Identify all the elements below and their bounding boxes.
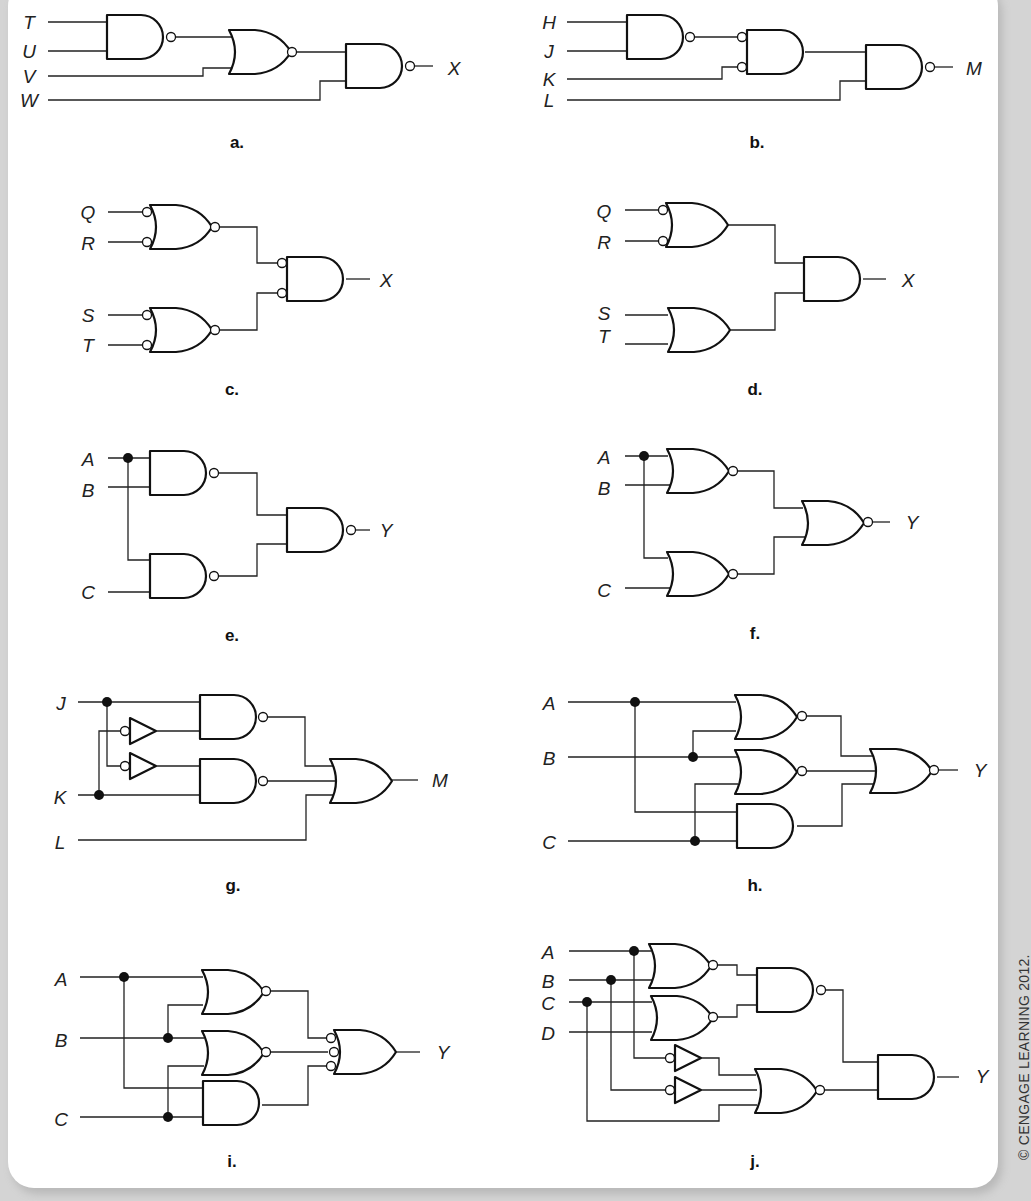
- circuit-j: [569, 944, 959, 1121]
- input-label-L: L: [544, 91, 555, 110]
- inversion-bubble: [167, 33, 176, 42]
- not-gate: [130, 718, 156, 744]
- circuit-i: [80, 970, 420, 1125]
- circuit-d: [625, 203, 886, 352]
- input-label-K: K: [54, 788, 67, 807]
- caption-c: c.: [225, 380, 239, 400]
- input-label-S: S: [598, 304, 611, 323]
- output-label: X: [380, 271, 393, 290]
- junction-dot: [123, 453, 133, 463]
- input-label-D: D: [541, 1024, 555, 1043]
- output-label: Y: [380, 521, 393, 540]
- input-label-L: L: [55, 833, 66, 852]
- input-label-B: B: [542, 972, 555, 991]
- circuit-g: [78, 695, 418, 840]
- input-label-Q: Q: [81, 203, 96, 222]
- input-label-C: C: [597, 581, 611, 600]
- caption-g: g.: [225, 876, 240, 896]
- circuit-h: [568, 695, 958, 848]
- input-label-C: C: [541, 994, 555, 1013]
- input-label-A: A: [543, 694, 556, 713]
- input-label-A: A: [598, 448, 611, 467]
- and-gate-inverted-inputs: [747, 30, 803, 74]
- input-label-S: S: [82, 306, 95, 325]
- caption-i: i.: [227, 1152, 236, 1172]
- output-label: Y: [437, 1043, 450, 1062]
- caption-b: b.: [749, 133, 764, 153]
- input-label-R: R: [597, 233, 611, 252]
- input-label-J: J: [56, 694, 66, 713]
- input-label-T: T: [82, 336, 94, 355]
- input-label-C: C: [542, 833, 556, 852]
- caption-f: f.: [750, 624, 760, 644]
- output-label: M: [966, 59, 982, 78]
- output-label: Y: [974, 761, 987, 780]
- logic-circuits-figure: [0, 0, 1031, 1201]
- input-label-B: B: [82, 481, 95, 500]
- nand-gate: [346, 44, 402, 88]
- input-label-W: W: [20, 91, 38, 110]
- input-label-K: K: [543, 70, 556, 89]
- input-label-J: J: [544, 42, 554, 61]
- input-label-V: V: [23, 67, 36, 86]
- input-label-A: A: [82, 450, 95, 469]
- caption-j: j.: [750, 1152, 759, 1172]
- output-label: Y: [906, 513, 919, 532]
- input-label-B: B: [55, 1031, 68, 1050]
- output-label: M: [432, 771, 448, 790]
- or-gate-inverted-inputs: [334, 1030, 396, 1074]
- input-label-C: C: [81, 583, 95, 602]
- input-label-U: U: [22, 42, 36, 61]
- input-label-T: T: [598, 327, 610, 346]
- input-label-T: T: [23, 13, 35, 32]
- circuit-f: [625, 449, 890, 596]
- circuit-b: [567, 15, 953, 100]
- nand-gate: [107, 15, 163, 59]
- output-label: Y: [976, 1067, 989, 1086]
- input-label-B: B: [598, 479, 611, 498]
- circuit-c: [108, 205, 370, 352]
- caption-d: d.: [747, 380, 762, 400]
- not-gate: [130, 753, 156, 779]
- output-label: X: [902, 271, 915, 290]
- circuit-e: [108, 451, 370, 598]
- input-label-R: R: [81, 234, 95, 253]
- input-label-C: C: [54, 1110, 68, 1129]
- nor-gate: [229, 30, 291, 74]
- caption-a: a.: [230, 133, 244, 153]
- input-label-B: B: [543, 749, 556, 768]
- copyright-credit: © CENGAGE LEARNING 2012.: [1016, 954, 1031, 1160]
- input-label-A: A: [55, 970, 68, 989]
- caption-e: e.: [225, 626, 239, 646]
- output-label: X: [448, 59, 461, 78]
- input-label-Q: Q: [597, 202, 612, 221]
- input-label-H: H: [542, 13, 556, 32]
- circuit-a: [48, 15, 433, 100]
- caption-h: h.: [747, 876, 762, 896]
- input-label-A: A: [542, 943, 555, 962]
